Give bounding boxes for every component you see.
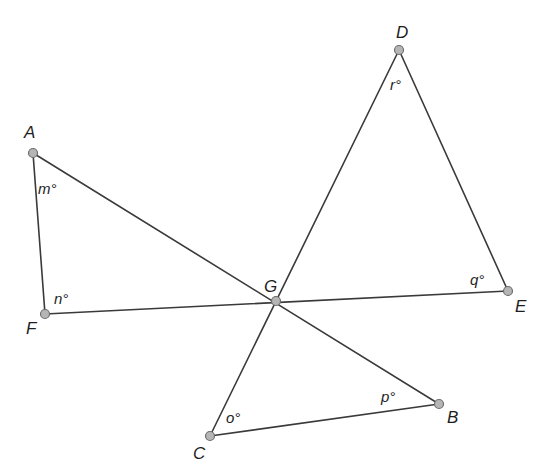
point-label-b: B	[447, 408, 458, 427]
angle-label-p: p°	[380, 388, 395, 405]
point-label-e: E	[515, 297, 527, 316]
angle-label-o: o°	[226, 409, 240, 426]
point-label-d: D	[396, 23, 408, 42]
point-g-marker	[272, 297, 281, 306]
angle-label-m: m°	[38, 180, 57, 197]
segment-ab	[33, 153, 439, 404]
point-f-marker	[41, 310, 50, 319]
point-c-marker	[206, 432, 215, 441]
geometry-diagram: m°n°r°q°o°p° AFDEGCB	[0, 0, 548, 475]
angle-label-n: n°	[54, 290, 68, 307]
point-b-marker	[435, 400, 444, 409]
segment-cb	[210, 404, 439, 436]
angle-label-r: r°	[390, 76, 401, 93]
angle-labels-group: m°n°r°q°o°p°	[38, 76, 484, 426]
point-label-c: C	[193, 444, 206, 463]
segment-dc	[210, 50, 399, 436]
point-label-a: A	[23, 123, 35, 142]
point-d-marker	[395, 46, 404, 55]
point-label-g: G	[264, 277, 277, 296]
points-group: AFDEGCB	[23, 23, 527, 463]
point-label-f: F	[26, 319, 38, 338]
point-a-marker	[29, 149, 38, 158]
angle-label-q: q°	[470, 271, 484, 288]
segment-af	[33, 153, 45, 314]
segments-group	[33, 50, 508, 436]
point-e-marker	[504, 287, 513, 296]
segment-de	[399, 50, 508, 291]
